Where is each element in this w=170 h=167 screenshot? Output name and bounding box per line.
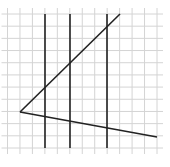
lower-ray bbox=[20, 112, 157, 137]
parallel-lines bbox=[45, 14, 107, 148]
angle-rays bbox=[20, 14, 157, 137]
grid bbox=[2, 8, 164, 154]
geometry-diagram bbox=[0, 0, 170, 167]
